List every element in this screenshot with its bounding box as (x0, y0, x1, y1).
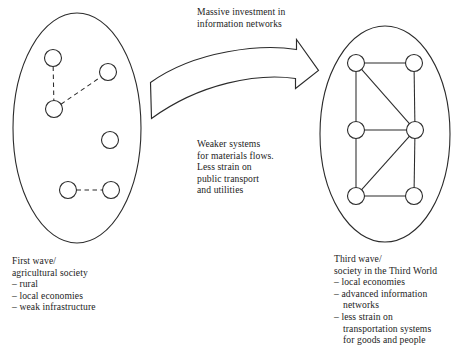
middle-line-3: public transport (197, 173, 274, 185)
right-society-bullet-1-line-1: networks (334, 299, 437, 311)
middle-line-4: and utilities (197, 184, 274, 196)
right-network-edge-R4-R5 (362, 136, 410, 189)
left-society-bullet-0-line-0: – rural (12, 278, 96, 290)
right-network-edge-R2-R4 (414, 71, 415, 121)
left-society-title-line-1: agricultural society (12, 267, 96, 279)
right-network-edge-R4-R6 (414, 138, 415, 187)
left-society-bullet-1-line-0: – local economies (12, 290, 96, 302)
left-network-edge-L1-L3 (53, 66, 54, 100)
left-network-node-L4 (102, 132, 119, 149)
caption-left-society: First wave/agricultural society– rural– … (12, 255, 96, 313)
transition-line-1: information networks (197, 18, 285, 30)
right-network-node-R3 (348, 122, 365, 139)
left-network-node-L1 (45, 50, 62, 67)
caption-middle: Weaker systemsfor materials flows.Less s… (197, 138, 274, 196)
right-society-bullet-2-line-1: transportation systems (334, 323, 437, 335)
right-society-bullet-1-line-0: – advanced information (334, 288, 437, 300)
left-society-bullet-2-line-0: – weak infrastructure (12, 301, 96, 313)
left-network-node-L5 (60, 182, 77, 199)
caption-right-society: Third wave/society in the Third World– l… (334, 253, 437, 346)
diagram-canvas: Massive investment ininformation network… (0, 0, 462, 357)
left-network-node-L3 (46, 101, 63, 118)
transition-arrow-icon (151, 40, 319, 119)
right-society-title-line-1: society in the Third World (334, 265, 437, 277)
middle-line-1: for materials flows. (197, 150, 274, 162)
right-society-bullet-2-line-0: – less strain on (334, 311, 437, 323)
right-society-title-line-0: Third wave/ (334, 253, 437, 265)
caption-transition: Massive investment ininformation network… (197, 6, 285, 29)
left-network-node-L6 (103, 182, 120, 199)
middle-line-0: Weaker systems (197, 138, 274, 150)
left-network-edge-L3-L2 (61, 77, 101, 104)
right-society-bullet-2-line-2: for goods and people (334, 334, 437, 346)
left-society-title-line-0: First wave/ (12, 255, 96, 267)
left-network-node-L2 (100, 64, 117, 81)
right-society-ellipse (320, 26, 450, 242)
right-network-edge-R1-R4 (362, 69, 410, 123)
left-society-ellipse (13, 13, 141, 243)
right-network-node-R4 (407, 122, 424, 139)
right-network-node-R2 (406, 55, 423, 72)
transition-line-0: Massive investment in (197, 6, 285, 18)
middle-line-2: Less strain on (197, 161, 274, 173)
right-network-node-R1 (348, 55, 365, 72)
right-society-bullet-0-line-0: – local economies (334, 276, 437, 288)
right-network-node-R5 (348, 188, 365, 205)
right-network-node-R6 (406, 188, 423, 205)
